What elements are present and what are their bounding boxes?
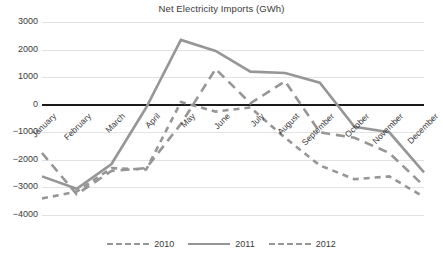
legend-swatch-2012 xyxy=(269,243,311,245)
legend-item-2010[interactable]: 2010 xyxy=(107,239,174,249)
chart-legend: 201020112012 xyxy=(0,239,443,249)
x-axis-tick-label-november: November xyxy=(371,111,406,146)
y-axis-tick-label: 0 xyxy=(0,99,38,109)
chart-title: Net Electricity Imports (GWh) xyxy=(0,3,443,14)
x-axis-tick-label-december: December xyxy=(405,111,440,146)
x-axis-tick-label-june: June xyxy=(212,111,232,131)
y-axis-tick-label: 2000 xyxy=(0,44,38,54)
legend-swatch-2010 xyxy=(107,243,149,245)
y-axis: 3000200010000−1000−2000−3000−4000 xyxy=(0,22,38,215)
legend-item-2011[interactable]: 2011 xyxy=(188,239,254,249)
x-axis-tick-label-february: February xyxy=(62,111,93,142)
x-axis-tick-label-march: March xyxy=(104,111,128,135)
legend-swatch-2011 xyxy=(188,243,230,245)
y-axis-tick-label: −4000 xyxy=(0,209,38,219)
x-axis-tick-label-july: July xyxy=(249,111,267,129)
chart-container: Net Electricity Imports (GWh) 3000200010… xyxy=(0,0,443,255)
y-axis-tick-label: 3000 xyxy=(0,16,38,26)
y-axis-tick-label: −2000 xyxy=(0,154,38,164)
x-axis-tick-label-april: April xyxy=(143,111,162,130)
legend-label-2010: 2010 xyxy=(154,239,174,249)
y-axis-tick-label: 1000 xyxy=(0,71,38,81)
x-axis: JanuaryFebruaryMarchAprilMayJuneJulyAugu… xyxy=(42,106,424,186)
gridline xyxy=(42,215,424,216)
legend-item-2012[interactable]: 2012 xyxy=(269,239,336,249)
legend-label-2011: 2011 xyxy=(235,239,254,249)
y-axis-tick-label: −3000 xyxy=(0,181,38,191)
x-axis-tick-label-august: August xyxy=(275,111,301,137)
x-axis-tick-label-may: May xyxy=(179,111,197,129)
legend-label-2012: 2012 xyxy=(316,239,336,249)
x-axis-tick-label-september: September xyxy=(299,111,335,147)
x-axis-tick-label-october: October xyxy=(342,111,370,139)
